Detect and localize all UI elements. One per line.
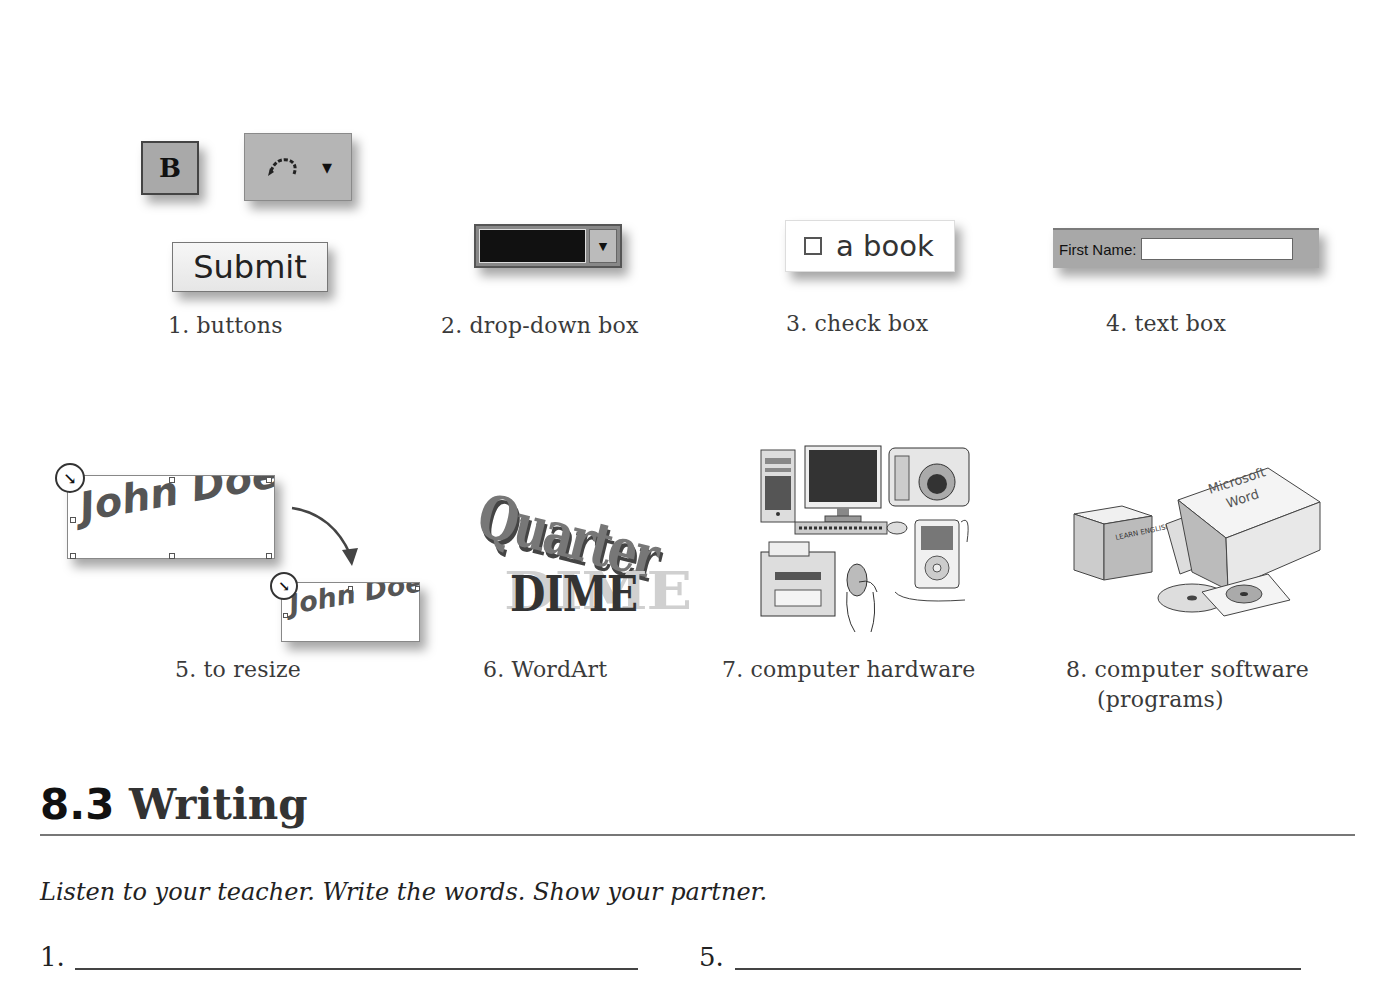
resize-handle[interactable] [266, 477, 272, 483]
resize-handle[interactable] [266, 553, 272, 559]
resize-text-large: John Doe [76, 475, 275, 530]
caption-dropdown: 2. drop-down box [441, 313, 639, 338]
resize-handle[interactable] [70, 553, 76, 559]
section-title: 8.3 Writing [40, 780, 308, 829]
instructions: Listen to your teacher. Write the words.… [40, 878, 767, 906]
printer-icon [761, 542, 835, 616]
checkbox-example[interactable]: a book [785, 220, 955, 272]
first-name-label: First Name: [1059, 241, 1137, 258]
textbox-example: First Name: [1053, 228, 1319, 268]
undo-button[interactable]: ▾ [244, 133, 352, 201]
bold-button[interactable]: B [141, 141, 199, 195]
blank-5-line[interactable] [735, 968, 1301, 970]
caption-wordart: 6. WordArt [483, 657, 607, 682]
hardware-illustration [755, 442, 973, 632]
submit-label: Submit [193, 248, 307, 286]
checkbox[interactable] [804, 237, 822, 255]
caption-textbox: 4. text box [1106, 311, 1226, 336]
resize-text-small: John Doe [287, 582, 420, 620]
dropdown-arrow-icon[interactable]: ▼ [589, 229, 617, 263]
resize-arrow-icon[interactable]: ↘ [55, 463, 85, 493]
mouse-hand-icon [847, 564, 877, 632]
resize-arrow-icon[interactable]: ↘ [270, 572, 298, 600]
resize-handle[interactable] [169, 477, 175, 483]
resize-handle[interactable] [348, 586, 353, 591]
caption-checkbox: 3. check box [786, 311, 928, 336]
section-title-text: Writing [129, 780, 308, 829]
resize-box-large[interactable]: John Doe [67, 475, 275, 559]
resize-handle[interactable] [283, 613, 288, 618]
blank-1-line[interactable] [75, 968, 638, 970]
microsoft-word-box-icon: Microsoft Word [1178, 464, 1320, 590]
caption-software-line2: (programs) [1097, 687, 1224, 712]
first-name-input[interactable] [1141, 238, 1293, 260]
section-divider [40, 834, 1355, 836]
mp3-player-icon [895, 520, 968, 601]
caption-resize: 5. to resize [175, 657, 301, 682]
software-illustration: LEARN ENGLISH Microsoft Word [1072, 462, 1324, 617]
caption-software-line1: 8. computer software [1066, 657, 1309, 682]
tower-icon [761, 450, 795, 522]
section-number: 8.3 [40, 780, 114, 829]
monitor-icon [805, 446, 881, 522]
keyboard-icon [795, 522, 907, 534]
bold-glyph: B [159, 153, 181, 183]
undo-icon [264, 154, 304, 180]
dropdown-box[interactable]: ▼ [474, 224, 622, 268]
blank-5-number: 5. [699, 942, 724, 972]
chevron-down-icon: ▾ [322, 155, 332, 179]
dropdown-field[interactable] [479, 229, 586, 263]
learn-english-box-icon: LEARN ENGLISH [1074, 506, 1171, 580]
curved-arrow-icon [288, 500, 368, 570]
camera-icon [889, 448, 969, 506]
resize-handle[interactable] [169, 553, 175, 559]
blank-1-number: 1. [40, 942, 65, 972]
resize-handle[interactable] [70, 517, 76, 523]
submit-button[interactable]: Submit [172, 242, 328, 292]
resize-handle[interactable] [415, 586, 420, 591]
caption-buttons: 1. buttons [168, 313, 283, 338]
checkbox-label: a book [836, 229, 934, 263]
resize-box-small[interactable]: John Doe [281, 582, 420, 642]
wordart-dime: DIME [510, 566, 637, 622]
caption-hardware: 7. computer hardware [722, 657, 975, 682]
